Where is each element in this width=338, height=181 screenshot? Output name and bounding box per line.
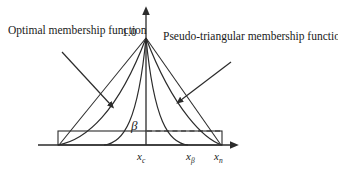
tick-sub: n [219, 156, 223, 165]
beta-label: β [131, 119, 137, 134]
peak-value-label: 1.0 [122, 26, 136, 39]
support-box [58, 131, 222, 145]
pseudo-callout-arrow [181, 62, 231, 100]
tick-sub: c [142, 156, 145, 165]
tick-sub: β [191, 156, 195, 165]
figure-container: Optimal membership function Pseudo-trian… [0, 0, 338, 181]
pseudo-triangular-membership-label: Pseudo-triangular membership function [163, 30, 331, 43]
triangle-flank-right [146, 38, 221, 145]
tick-label-xc: xc [137, 150, 145, 166]
optimal-callout-arrow [62, 52, 110, 104]
tick-label-xbeta: xβ [186, 150, 195, 166]
tick-label-xn: xn [214, 150, 223, 166]
